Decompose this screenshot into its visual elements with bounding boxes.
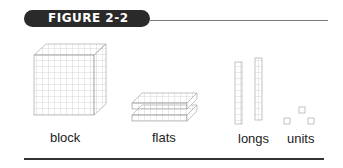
- label-longs: longs: [238, 131, 269, 146]
- label-units: units: [287, 131, 314, 146]
- units-cubes: [284, 107, 314, 124]
- footer-rule: [24, 158, 324, 160]
- longs-rods: [235, 58, 262, 124]
- flats-stack: [132, 93, 197, 121]
- block-cube: [34, 44, 106, 115]
- label-block: block: [50, 130, 80, 145]
- label-flats: flats: [152, 130, 176, 145]
